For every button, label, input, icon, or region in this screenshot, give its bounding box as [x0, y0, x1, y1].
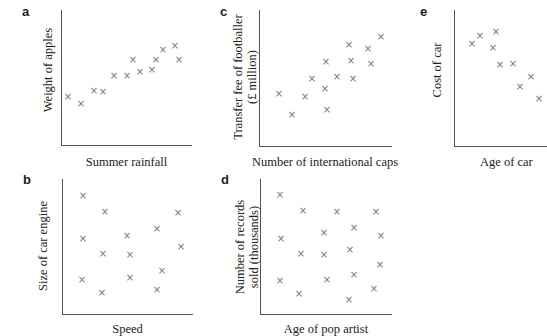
data-point-marker: × — [344, 295, 354, 305]
y-axis-label-c-line2: (£ million) — [245, 7, 259, 147]
data-point-marker: × — [98, 87, 108, 97]
data-point-marker: × — [375, 260, 385, 270]
x-axis-d — [260, 314, 392, 315]
data-point-marker: × — [78, 191, 88, 201]
data-point-marker: × — [345, 245, 355, 255]
data-point-marker: × — [508, 59, 518, 69]
data-point-marker: × — [287, 110, 297, 120]
data-point-marker: × — [488, 43, 498, 53]
data-point-marker: × — [122, 231, 132, 241]
data-point-marker: × — [322, 105, 332, 115]
data-point-marker: × — [322, 275, 332, 285]
y-axis-label-d-line2: sold (thousands) — [247, 187, 261, 307]
data-point-marker: × — [97, 288, 107, 298]
y-axis-a — [61, 10, 62, 145]
data-point-marker: × — [100, 207, 110, 217]
data-point-marker: × — [174, 55, 184, 65]
data-point-marker: × — [376, 32, 386, 42]
data-point-marker: × — [147, 65, 157, 75]
data-point-marker: × — [298, 206, 308, 216]
y-axis-label-e: Cost of car — [430, 30, 444, 110]
data-point-marker: × — [76, 99, 86, 109]
data-point-marker: × — [300, 92, 310, 102]
y-axis-label-a: Weight of apples — [41, 10, 55, 130]
data-point-marker: × — [534, 94, 544, 104]
data-point-marker: × — [275, 276, 285, 286]
panel-letter-b: b — [23, 172, 31, 187]
data-point-marker: × — [371, 207, 381, 217]
y-axis-label-d-line1: Number of records — [233, 187, 247, 307]
data-point-marker: × — [77, 275, 87, 285]
data-point-marker: × — [98, 249, 108, 259]
data-point-marker: × — [158, 45, 168, 55]
data-point-marker: × — [346, 56, 356, 66]
y-axis-label-b: Size of car engine — [36, 186, 50, 306]
y-axis-e — [454, 10, 455, 146]
data-point-marker: × — [475, 31, 485, 41]
data-point-marker: × — [320, 84, 330, 94]
data-point-marker: × — [307, 74, 317, 84]
x-axis-label-a: Summer rainfall — [61, 155, 192, 170]
data-point-marker: × — [151, 55, 161, 65]
data-point-marker: × — [344, 40, 354, 50]
x-axis-b — [62, 314, 193, 315]
data-point-marker: × — [125, 273, 135, 283]
data-point-marker: × — [170, 41, 180, 51]
data-point-marker: × — [109, 71, 119, 81]
y-axis-b — [62, 179, 63, 314]
data-point-marker: × — [296, 249, 306, 259]
data-point-marker: × — [515, 82, 525, 92]
data-point-marker: × — [376, 231, 386, 241]
x-axis-c — [259, 146, 392, 147]
x-axis-a — [61, 145, 192, 146]
data-point-marker: × — [348, 74, 358, 84]
data-point-marker: × — [173, 208, 183, 218]
panel-letter-e: e — [420, 4, 427, 19]
data-point-marker: × — [157, 266, 167, 276]
panel-letter-d: d — [221, 172, 229, 187]
data-point-marker: × — [294, 289, 304, 299]
data-point-marker: × — [321, 57, 331, 67]
data-point-marker: × — [276, 234, 286, 244]
data-point-marker: × — [176, 242, 186, 252]
data-point-marker: × — [135, 67, 145, 77]
x-axis-label-d: Age of pop artist — [260, 322, 392, 336]
data-point-marker: × — [152, 285, 162, 295]
data-point-marker: × — [125, 250, 135, 260]
data-point-marker: × — [332, 72, 342, 82]
panel-letter-c: c — [220, 4, 227, 19]
y-axis-label-c-line1: Transfer fee of footballer — [231, 7, 245, 147]
data-point-marker: × — [349, 270, 359, 280]
x-axis-label-c: Number of international caps — [240, 155, 410, 170]
data-point-marker: × — [78, 234, 88, 244]
data-point-marker: × — [152, 224, 162, 234]
data-point-marker: × — [128, 55, 138, 65]
data-point-marker: × — [319, 228, 329, 238]
y-axis-label-c: Transfer fee of footballer (£ million) — [231, 7, 261, 147]
data-point-marker: × — [122, 71, 132, 81]
x-axis-label-b: Speed — [62, 322, 193, 336]
data-point-marker: × — [332, 207, 342, 217]
data-point-marker: × — [319, 250, 329, 260]
y-axis-label-d: Number of records sold (thousands) — [233, 187, 263, 307]
panel-letter-a: a — [22, 4, 29, 19]
data-point-marker: × — [349, 223, 359, 233]
data-point-marker: × — [369, 284, 379, 294]
data-point-marker: × — [363, 44, 373, 54]
data-point-marker: × — [274, 89, 284, 99]
x-axis-label-e: Age of car — [480, 155, 547, 170]
x-axis-e — [454, 146, 547, 147]
data-point-marker: × — [491, 27, 501, 37]
data-point-marker: × — [526, 72, 536, 82]
data-point-marker: × — [366, 59, 376, 69]
data-point-marker: × — [275, 190, 285, 200]
data-point-marker: × — [63, 92, 73, 102]
data-point-marker: × — [495, 60, 505, 70]
